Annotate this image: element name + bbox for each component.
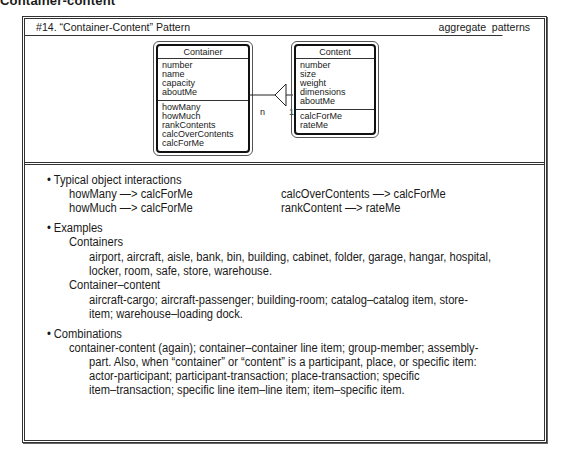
container-content-text: aircraft-cargo; aircraft-passenger; buil… — [89, 294, 468, 308]
combinations-text: part. Also, when “container” or “content… — [89, 356, 477, 370]
container-class: Container number name capacity aboutMe h… — [153, 41, 253, 156]
containers-label: Containers — [69, 236, 123, 250]
interaction-line: rankContent —> rateMe — [281, 202, 400, 216]
interactions-heading: Typical object interactions — [47, 174, 181, 188]
pattern-category: aggregate patterns — [438, 21, 530, 33]
attribute: aboutMe — [300, 97, 370, 106]
method: calcForMe — [162, 139, 244, 148]
content-attributes: number size weight dimensions aboutMe — [296, 59, 374, 110]
combinations-heading: Combinations — [47, 328, 122, 342]
page-heading: Container-content — [0, 0, 115, 8]
pattern-header: #14. “Container-Content” Pattern aggrega… — [25, 19, 502, 36]
containers-text: locker, room, safe, store, warehouse. — [89, 265, 272, 279]
combinations-text: container-content (again); container–con… — [69, 342, 478, 356]
container-content-label: Container–content — [69, 279, 160, 293]
multiplicity-n: n — [260, 107, 265, 117]
method: rateMe — [300, 121, 370, 130]
attribute: aboutMe — [162, 88, 244, 97]
interaction-line: calcOverContents —> calcForMe — [281, 188, 446, 202]
content-methods: calcForMe rateMe — [296, 110, 374, 133]
container-methods: howMany howMuch rankContents calcOverCon… — [158, 101, 248, 151]
pattern-title: #14. “Container-Content” Pattern — [36, 21, 190, 33]
container-class-name: Container — [158, 46, 248, 59]
container-attributes: number name capacity aboutMe — [158, 59, 248, 101]
interaction-line: howMuch —> calcForMe — [69, 202, 193, 216]
class-diagram: Container number name capacity aboutMe h… — [25, 36, 544, 165]
content-class-name: Content — [296, 46, 374, 59]
combinations-text: actor-participant; participant-transacti… — [89, 370, 420, 384]
pattern-description: Typical object interactions howMany —> c… — [25, 167, 544, 440]
combinations-text: item–transaction; specific line item–lin… — [89, 384, 405, 398]
aggregation-connector — [249, 80, 293, 110]
pattern-card: #14. “Container-Content” Pattern aggrega… — [22, 16, 547, 443]
examples-heading: Examples — [47, 222, 103, 236]
container-content-text: item; warehouse–loading dock. — [89, 308, 243, 322]
containers-text: airport, aircraft, aisle, bank, bin, bui… — [89, 251, 491, 265]
content-class: Content number size weight dimensions ab… — [291, 41, 379, 138]
interaction-line: howMany —> calcForMe — [69, 188, 193, 202]
